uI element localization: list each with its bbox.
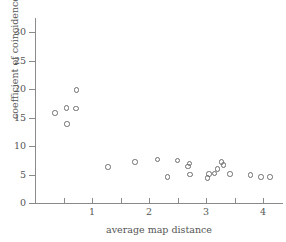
x-tick-mark-minor [121,198,122,203]
data-point [212,171,217,176]
y-tick-mark [29,89,35,90]
data-point [206,171,211,176]
y-tick-label: 10 [0,141,26,150]
data-point [165,174,170,179]
y-tick-label: 20 [0,84,26,93]
data-point [73,106,78,111]
y-tick-mark [29,32,35,33]
data-point [227,171,232,176]
data-point [215,166,220,171]
x-tick-mark-minor [64,198,65,203]
data-point [267,174,272,179]
x-tick-label: 3 [197,206,215,217]
x-tick-label: 4 [254,206,272,217]
x-tick-mark [263,198,264,204]
x-tick-mark [92,198,93,204]
data-point [74,87,79,92]
x-tick-mark-minor [178,198,179,203]
y-tick-mark [29,175,35,176]
x-tick-label: 1 [83,206,101,217]
data-point [258,174,263,179]
data-point [187,161,192,166]
x-tick-mark-minor [235,198,236,203]
data-point [248,172,253,177]
data-point [64,121,69,126]
y-tick-mark [29,146,35,147]
y-tick-mark [29,203,35,204]
x-tick-mark [149,198,150,204]
y-tick-mark [29,61,35,62]
x-tick-label: 2 [140,206,158,217]
data-point [221,162,226,167]
x-tick-mark [206,198,207,204]
data-point [175,158,180,163]
data-point [155,157,160,162]
data-point [105,164,110,169]
data-point [132,159,137,164]
data-point [64,105,69,110]
y-tick-label: 25 [0,56,26,65]
data-point [52,110,57,115]
y-tick-label: 0 [0,198,26,207]
y-tick-label: 5 [0,170,26,179]
y-tick-label: 30 [0,27,26,36]
y-tick-label: 15 [0,113,26,122]
scatter-plot-figure: coefficient of coincidence average map d… [0,0,286,242]
y-tick-mark [29,118,35,119]
data-point [187,172,192,177]
